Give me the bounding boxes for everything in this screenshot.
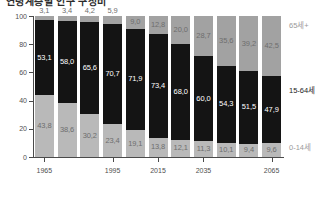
- segment-value-label: 4,2: [85, 7, 95, 15]
- bar-1995[interactable]: 23,470,75,9: [103, 16, 122, 157]
- segment-0-14[interactable]: 19,1: [126, 130, 145, 157]
- segment-65-plus[interactable]: 5,9: [103, 16, 122, 24]
- segment-0-14[interactable]: 12,1: [171, 140, 190, 157]
- segment-value-label: 13,8: [151, 143, 165, 151]
- segment-65-plus[interactable]: 4,2: [80, 16, 99, 22]
- y-tick-label: 80: [1, 41, 27, 48]
- x-tick-label: 1965: [24, 167, 64, 175]
- x-tick-label: 2015: [138, 167, 178, 175]
- segment-0-14[interactable]: 10,1: [217, 143, 236, 157]
- segment-value-label: 12,8: [151, 21, 165, 29]
- bar-1965[interactable]: 43,853,13,1: [35, 16, 54, 157]
- segment-15-64[interactable]: 70,7: [103, 24, 122, 124]
- segment-0-14[interactable]: 11,3: [194, 141, 213, 157]
- segment-value-label: 9,0: [130, 18, 140, 26]
- y-tick-label: 60: [1, 69, 27, 76]
- segment-value-label: 9,6: [267, 146, 277, 154]
- segment-65-plus[interactable]: 20,0: [171, 16, 190, 44]
- segment-65-plus[interactable]: 42,5: [262, 16, 281, 76]
- segment-value-label: 53,1: [37, 54, 51, 62]
- x-tick-mark: [113, 158, 114, 162]
- y-tick-label-wrap: 80: [0, 41, 27, 48]
- segment-value-label: 23,4: [105, 137, 119, 145]
- plot-area: 43,853,13,138,658,03,430,265,64,223,470,…: [33, 16, 283, 157]
- segment-15-64[interactable]: 68,0: [171, 44, 190, 140]
- bar-2035[interactable]: 11,360,028,7: [194, 16, 213, 157]
- segment-value-label: 3,1: [39, 7, 49, 15]
- y-tick-label: 20: [1, 125, 27, 132]
- x-tick-label: 2035: [183, 167, 223, 175]
- segment-65-plus[interactable]: 12,8: [149, 16, 168, 34]
- segment-value-label: 19,1: [128, 140, 142, 148]
- bar-2045[interactable]: 10,154,335,6: [217, 16, 236, 157]
- y-tick-label: 40: [1, 97, 27, 104]
- segment-value-label: 58,0: [60, 58, 74, 66]
- segment-value-label: 47,9: [265, 106, 279, 114]
- y-tick-label: 0: [1, 154, 27, 161]
- segment-65-plus[interactable]: 35,6: [217, 16, 236, 66]
- segment-value-label: 68,0: [174, 88, 188, 96]
- y-tick-label-wrap: 60: [0, 69, 27, 76]
- bar-2065[interactable]: 9,647,942,5: [262, 16, 281, 157]
- bar-1985[interactable]: 30,265,64,2: [80, 16, 99, 157]
- stacked-bar-chart: 020406080100 19651995201520352065 43,853…: [0, 11, 328, 205]
- segment-0-14[interactable]: 9,6: [262, 143, 281, 157]
- segment-15-64[interactable]: 47,9: [262, 76, 281, 144]
- segment-15-64[interactable]: 53,1: [35, 20, 54, 95]
- segment-65-plus[interactable]: 3,4: [58, 16, 77, 21]
- segment-15-64[interactable]: 58,0: [58, 21, 77, 103]
- segment-65-plus[interactable]: 9,0: [126, 16, 145, 29]
- series-label-65-plus: 65세+: [289, 22, 309, 30]
- segment-value-label: 54,3: [219, 100, 233, 108]
- segment-value-label: 73,4: [151, 82, 165, 90]
- bar-2015[interactable]: 13,873,412,8: [149, 16, 168, 157]
- segment-value-label: 9,4: [244, 146, 254, 154]
- segment-value-label: 60,0: [196, 95, 210, 103]
- y-tick-label-wrap: 40: [0, 97, 27, 104]
- segment-65-plus[interactable]: 28,7: [194, 16, 213, 56]
- bar-2005[interactable]: 19,171,99,0: [126, 16, 145, 157]
- y-tick-label-wrap: 0: [0, 154, 27, 161]
- segment-value-label: 11,3: [197, 145, 211, 153]
- segment-value-label: 43,8: [37, 122, 51, 130]
- y-tick-label-wrap: 20: [0, 125, 27, 132]
- segment-value-label: 30,2: [83, 132, 97, 140]
- x-tick-label: 2065: [252, 167, 292, 175]
- segment-0-14[interactable]: 30,2: [80, 114, 99, 157]
- y-tick-label-wrap: 100: [0, 13, 27, 20]
- bar-1975[interactable]: 38,658,03,4: [58, 16, 77, 157]
- segment-value-label: 70,7: [105, 70, 119, 78]
- segment-value-label: 20,0: [174, 26, 188, 34]
- segment-value-label: 35,6: [219, 37, 233, 45]
- segment-0-14[interactable]: 23,4: [103, 124, 122, 157]
- segment-value-label: 38,6: [60, 126, 74, 134]
- y-tick-mark: [29, 157, 33, 158]
- segment-0-14[interactable]: 13,8: [149, 138, 168, 157]
- segment-15-64[interactable]: 65,6: [80, 22, 99, 114]
- segment-15-64[interactable]: 73,4: [149, 34, 168, 137]
- segment-value-label: 12,1: [174, 144, 188, 152]
- segment-0-14[interactable]: 38,6: [58, 103, 77, 157]
- segment-15-64[interactable]: 51,5: [239, 71, 258, 144]
- segment-65-plus[interactable]: 3,1: [35, 16, 54, 20]
- segment-value-label: 65,6: [83, 64, 97, 72]
- segment-15-64[interactable]: 54,3: [217, 66, 236, 143]
- bar-2025[interactable]: 12,168,020,0: [171, 16, 190, 157]
- x-tick-mark: [158, 158, 159, 162]
- segment-value-label: 51,5: [242, 103, 256, 111]
- segment-value-label: 3,4: [62, 7, 72, 15]
- segment-value-label: 28,7: [196, 32, 210, 40]
- segment-15-64[interactable]: 60,0: [194, 56, 213, 141]
- segment-0-14[interactable]: 43,8: [35, 95, 54, 157]
- segment-0-14[interactable]: 9,4: [239, 144, 258, 157]
- segment-15-64[interactable]: 71,9: [126, 29, 145, 130]
- x-tick-mark: [203, 158, 204, 162]
- y-tick-label: 100: [1, 13, 27, 20]
- segment-value-label: 42,5: [265, 42, 279, 50]
- bar-2055[interactable]: 9,451,539,2: [239, 16, 258, 157]
- segment-65-plus[interactable]: 39,2: [239, 16, 258, 71]
- x-tick-label: 1995: [93, 167, 133, 175]
- segment-value-label: 71,9: [128, 75, 142, 83]
- x-tick-mark: [272, 158, 273, 162]
- x-tick-mark: [44, 158, 45, 162]
